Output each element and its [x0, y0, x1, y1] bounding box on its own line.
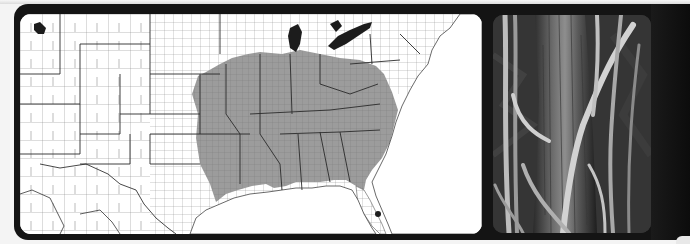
frame-right-edge [651, 4, 690, 240]
page-corner [676, 236, 690, 244]
county-map-graphic [20, 14, 482, 234]
vine-photo [493, 15, 651, 233]
vine-photo-graphic [493, 15, 651, 233]
florida-lake-marker [375, 211, 381, 217]
shaded-range [192, 50, 398, 202]
range-map [20, 14, 482, 234]
